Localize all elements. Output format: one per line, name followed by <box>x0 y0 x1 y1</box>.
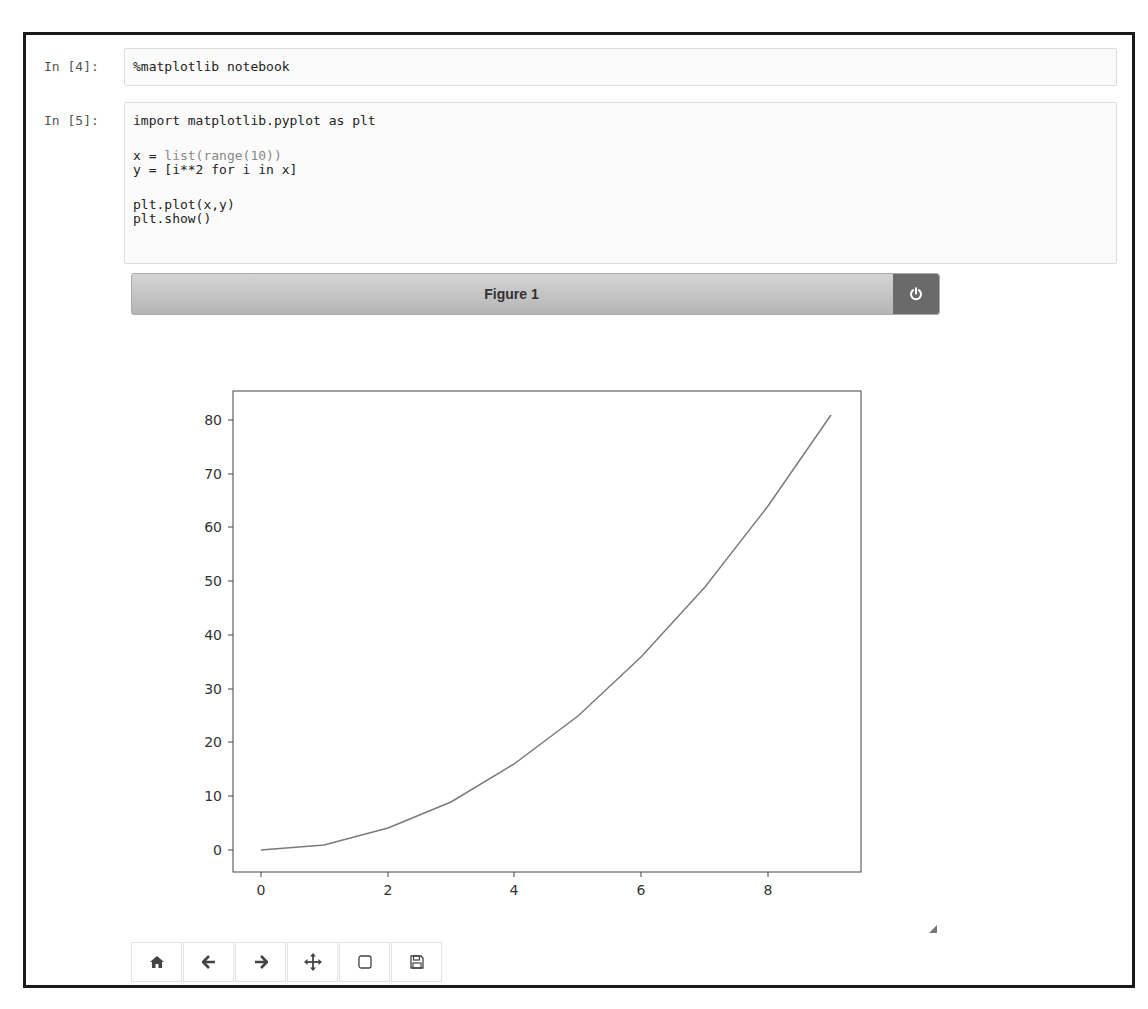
y-axis: 0 10 20 30 40 50 60 70 80 <box>204 412 233 858</box>
figure-canvas[interactable]: 0 10 20 30 40 50 60 70 80 0 2 4 6 8 <box>0 0 1148 1009</box>
arrow-left-icon <box>202 955 216 969</box>
home-icon <box>150 956 164 968</box>
y-tick-label: 40 <box>204 627 222 643</box>
download-button[interactable] <box>391 942 442 982</box>
resize-handle-icon[interactable] <box>928 924 938 934</box>
x-tick-label: 4 <box>510 882 519 898</box>
move-icon <box>304 953 322 971</box>
back-button[interactable] <box>183 942 234 982</box>
x-tick-label: 0 <box>257 882 266 898</box>
y-tick-label: 10 <box>204 788 222 804</box>
square-icon <box>358 955 372 969</box>
y-tick-label: 70 <box>204 466 222 482</box>
y-tick-label: 50 <box>204 573 222 589</box>
y-tick-label: 80 <box>204 412 222 428</box>
y-tick-label: 30 <box>204 681 222 697</box>
zoom-rect-button[interactable] <box>339 942 390 982</box>
x-axis: 0 2 4 6 8 <box>257 872 773 898</box>
axes: 0 10 20 30 40 50 60 70 80 0 2 4 6 8 <box>204 391 861 898</box>
floppy-disk-icon <box>410 955 424 969</box>
x-tick-label: 6 <box>637 882 646 898</box>
x-tick-label: 8 <box>764 882 773 898</box>
arrow-right-icon <box>254 955 268 969</box>
pan-button[interactable] <box>287 942 338 982</box>
figure-toolbar <box>131 942 443 982</box>
home-button[interactable] <box>131 942 182 982</box>
forward-button[interactable] <box>235 942 286 982</box>
y-tick-label: 0 <box>213 842 222 858</box>
y-tick-label: 60 <box>204 519 222 535</box>
x-tick-label: 2 <box>384 882 393 898</box>
y-tick-label: 20 <box>204 734 222 750</box>
